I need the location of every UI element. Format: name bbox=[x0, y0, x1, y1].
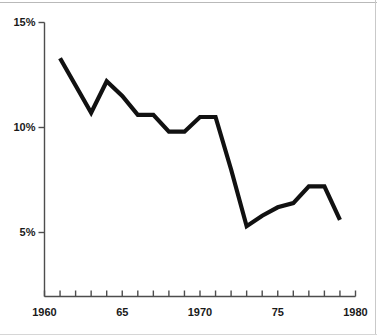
x-axis-label-1965: 65 bbox=[100, 306, 144, 318]
y-axis-label-10: 10% bbox=[2, 121, 36, 133]
x-axis-label-1975: 75 bbox=[256, 306, 300, 318]
chart-axes bbox=[45, 23, 356, 297]
y-axis-label-5: 5% bbox=[2, 226, 36, 238]
x-axis-label-1960: 1960 bbox=[23, 306, 67, 318]
chart-tick-marks bbox=[39, 23, 356, 297]
x-axis-label-1970: 1970 bbox=[178, 306, 222, 318]
y-axis-label-15: 15% bbox=[2, 16, 36, 28]
chart-screenshot: 15%10%5%1960651970751980 bbox=[0, 0, 377, 335]
line-chart bbox=[0, 0, 377, 335]
x-axis-label-1980: 1980 bbox=[334, 306, 377, 318]
data-series-line bbox=[60, 58, 340, 226]
